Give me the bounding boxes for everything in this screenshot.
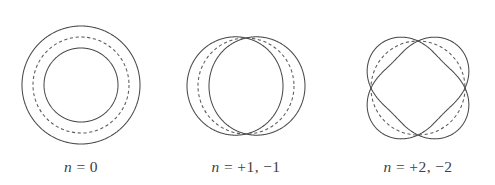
dashed-orbit-circle-n0: [33, 37, 129, 133]
dashed-orbit-circle-n1: [198, 38, 294, 134]
figure-label-rest-n0: = 0: [72, 158, 98, 175]
figure-label-rest-n2: = +2, −2: [392, 158, 453, 175]
dashed-orbit-circle-n2: [371, 41, 465, 135]
figure-group-n1: n = +1, −1: [187, 37, 305, 175]
figure-label-rest-n1: = +1, −1: [220, 158, 281, 175]
figure-label-n0: n = 0: [64, 158, 98, 175]
figure-label-n2: n = +2, −2: [384, 158, 453, 175]
wave-curve-inner-n0: [44, 48, 118, 122]
wave-curve-inner-n2: [367, 37, 469, 139]
figure-panel: n = 0 n = +1, −1 n = +2, −2: [0, 0, 495, 185]
figure-label-variable-n2: n: [384, 158, 392, 175]
figure-label-variable-n0: n: [64, 158, 72, 175]
figure-group-n2: n = +2, −2: [367, 37, 469, 175]
wave-curve-outer-n2: [367, 37, 469, 139]
wave-curve-outer-n1: [209, 37, 305, 135]
diagram-canvas: n = 0 n = +1, −1 n = +2, −2: [0, 0, 495, 185]
figure-group-n0: n = 0: [22, 26, 140, 175]
wave-curve-outer-n0: [22, 26, 140, 144]
figure-label-n1: n = +1, −1: [212, 158, 281, 175]
figure-label-variable-n1: n: [212, 158, 220, 175]
wave-curve-inner-n1: [187, 37, 283, 135]
